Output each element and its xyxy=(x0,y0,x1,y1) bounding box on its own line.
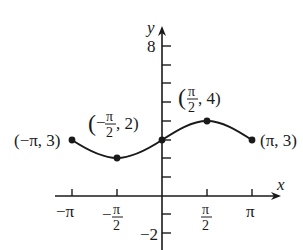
frac-num: π xyxy=(202,202,209,217)
frac-num: π xyxy=(113,202,120,217)
y-tick-label-8: 8 xyxy=(147,37,156,56)
graph-svg: y x 8 −2 −π − π 2 π 2 π (−π, 3) ( − π 2 … xyxy=(0,0,303,250)
point-neg-half-pi-2 xyxy=(114,155,121,162)
neg-sign: − xyxy=(96,113,106,132)
frac-den: 2 xyxy=(202,218,209,233)
x-axis-label: x xyxy=(276,175,285,194)
annotation-neg-half-pi-2: ( − π 2 , 2) xyxy=(88,109,139,140)
point-0-3 xyxy=(159,137,166,144)
frac-num: π xyxy=(188,84,195,99)
function-graph: y x 8 −2 −π − π 2 π 2 π (−π, 3) ( − π 2 … xyxy=(0,0,303,250)
frac-den: 2 xyxy=(106,125,113,140)
x-tick-label-pi: π xyxy=(246,202,255,221)
point-half-pi-4 xyxy=(204,118,211,125)
rest: , 2) xyxy=(116,114,139,133)
point-neg-pi-3 xyxy=(69,137,76,144)
annotation-pi-3: (π, 3) xyxy=(260,131,297,150)
y-tick-label-neg-2: −2 xyxy=(140,225,158,244)
annotation-neg-pi-3: (−π, 3) xyxy=(14,131,61,150)
y-axis-label: y xyxy=(145,18,155,37)
x-tick-label-neg-pi: −π xyxy=(56,202,75,221)
point-pi-3 xyxy=(249,137,256,144)
paren-open: ( xyxy=(178,84,186,110)
neg-sign: − xyxy=(102,205,112,224)
x-tick-label-neg-half-pi: − π 2 xyxy=(102,202,123,233)
frac-den: 2 xyxy=(113,218,120,233)
rest: , 4) xyxy=(198,89,221,108)
frac-num: π xyxy=(106,109,113,124)
frac-den: 2 xyxy=(188,100,195,115)
paren-open: ( xyxy=(88,110,96,136)
annotation-half-pi-4: ( π 2 , 4) xyxy=(178,84,221,115)
x-tick-label-half-pi: π 2 xyxy=(201,202,212,233)
